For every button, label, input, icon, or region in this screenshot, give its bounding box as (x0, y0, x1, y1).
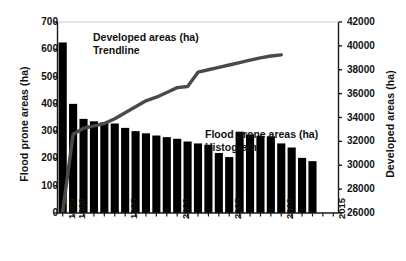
bar (111, 124, 119, 214)
bar (298, 158, 306, 213)
y-tick-label-left: 100 (18, 181, 58, 191)
y-tick-label-left: 400 (18, 99, 58, 109)
bar (152, 136, 160, 213)
x-tick-label: 2005 (233, 198, 243, 219)
y-tick-label-left: 0 (18, 208, 58, 218)
histogram-annotation: Flood prone areas (ha) Histogram (205, 128, 318, 154)
y-tick-label-right: 28000 (347, 184, 395, 194)
y-tick-label-left: 500 (18, 72, 58, 82)
y-tick-label-right: 34000 (347, 113, 395, 123)
trendline-annotation-line2: Trendline (93, 44, 199, 57)
bar (163, 137, 171, 213)
trendline-annotation: Developed areas (ha) Trendline (93, 31, 199, 57)
trendline-annotation-line1: Developed areas (ha) (93, 31, 199, 43)
y-tick-label-right: 38000 (347, 65, 395, 75)
y-tick-label-right: 30000 (347, 160, 395, 170)
histogram-annotation-line1: Flood prone areas (ha) (205, 128, 318, 140)
bar (100, 122, 108, 213)
y-tick-label-right: 42000 (347, 17, 395, 27)
y-tick-label-left: 300 (18, 126, 58, 136)
y-tick-label-left: 700 (18, 17, 58, 27)
x-tick-label: 2000 (181, 198, 191, 219)
y-tick-label-left: 200 (18, 153, 58, 163)
bar (90, 121, 98, 213)
x-tick-label: 2015 (337, 198, 347, 219)
y-tick-label-right: 32000 (347, 136, 395, 146)
chart-figure: Flood prone areas (ha) Developed areas (… (0, 0, 406, 261)
y-tick-label-right: 36000 (347, 89, 395, 99)
y-tick-label-right: 40000 (347, 41, 395, 51)
histogram-annotation-line2: Histogram (205, 141, 318, 154)
x-tick-label: 1990 (77, 198, 87, 219)
bar (194, 143, 202, 213)
x-tick-label: 1995 (129, 198, 139, 219)
plot-area (0, 0, 406, 261)
bar (308, 161, 316, 213)
bar (204, 145, 212, 213)
bar (142, 133, 150, 213)
bar (215, 153, 223, 213)
y-tick-label-left: 600 (18, 44, 58, 54)
y-tick-label-right: 26000 (347, 208, 395, 218)
x-tick-label: 2010 (285, 198, 295, 219)
